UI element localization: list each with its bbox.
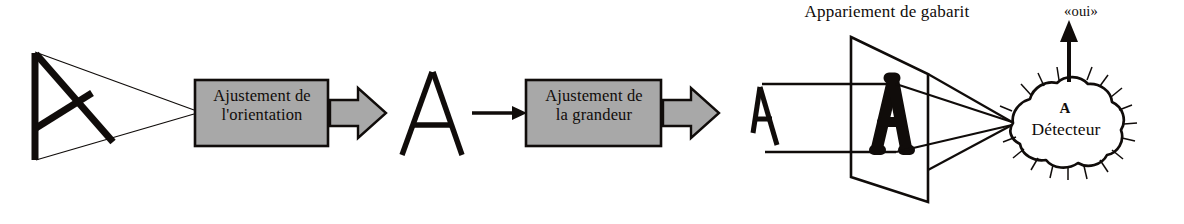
detector-letter-label: A [1038,100,1092,118]
detector-name-label: Détecteur [1010,119,1122,140]
detector-output-arrow [1060,20,1078,82]
upright-letter-a-icon [402,72,462,155]
template-matching-caption: Appariement de gabarit [772,2,1002,22]
scaled-letter-a-icon [753,87,777,145]
view-cone-left [35,52,194,160]
stage-size-label: Ajustement de la grandeur [527,86,661,125]
rotated-letter-a-icon [35,53,113,160]
thin-arrow-1 [472,106,527,120]
template-letter-a-icon [874,78,910,150]
block-arrow-1 [330,88,386,138]
convergence-lines-right [896,74,1012,170]
detector-output-label: «oui» [1035,3,1127,20]
block-arrow-2 [663,88,719,138]
template-matching-diagram: Ajustement de l'orientation Ajustement d… [0,0,1184,224]
stage-orientation-label: Ajustement de l'orientation [196,86,328,125]
rotated-stimulus-group [35,52,194,160]
